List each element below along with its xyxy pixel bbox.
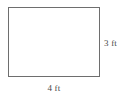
width-dimension-label: 4 ft <box>8 83 100 93</box>
rectangle-shape <box>8 7 100 77</box>
geometry-diagram: 3 ft 4 ft <box>0 0 127 99</box>
height-dimension-label: 3 ft <box>104 38 117 48</box>
